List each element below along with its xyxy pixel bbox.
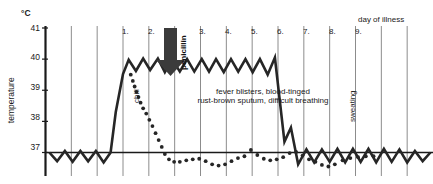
y-axis-title: temperature — [7, 70, 16, 130]
annotation-symptoms-line-2: rust-brown sputum, difficult breathing — [185, 97, 341, 105]
annotation-sweating: sweating — [349, 90, 357, 122]
fever-chart: °C 41 40 39 38 37 temperature 1. 2. 3. 4… — [0, 0, 433, 184]
x-tick-label-day-7: 7. — [303, 28, 310, 36]
annotation-penicillin: penicillin — [180, 35, 188, 70]
x-tick-label-day-2: 2. — [148, 28, 155, 36]
untreated-fever-line — [49, 58, 430, 165]
temperature-unit-label: °C — [21, 9, 31, 18]
y-tick-label-37: 37 — [22, 143, 40, 152]
y-tick-label-41: 41 — [22, 24, 40, 33]
y-tick-label-39: 39 — [22, 83, 40, 92]
annotation-chill: chill — [133, 89, 141, 103]
x-tick-label-day-6: 6. — [277, 28, 284, 36]
annotation-symptoms-line-1: fever blisters, blood-tinged — [185, 88, 341, 96]
x-tick-label-day-3: 3. — [199, 28, 206, 36]
x-tick-label-day-4: 4. — [225, 28, 232, 36]
x-tick-label-day-8: 8. — [329, 28, 336, 36]
x-tick-label-day-5: 5. — [251, 28, 258, 36]
y-tick-label-40: 40 — [22, 53, 40, 62]
x-tick-label-day-9: 9. — [355, 28, 362, 36]
x-tick-label-day-1: 1. — [122, 28, 129, 36]
x-axis-title: day of illness — [358, 16, 404, 24]
y-tick-label-38: 38 — [22, 113, 40, 122]
